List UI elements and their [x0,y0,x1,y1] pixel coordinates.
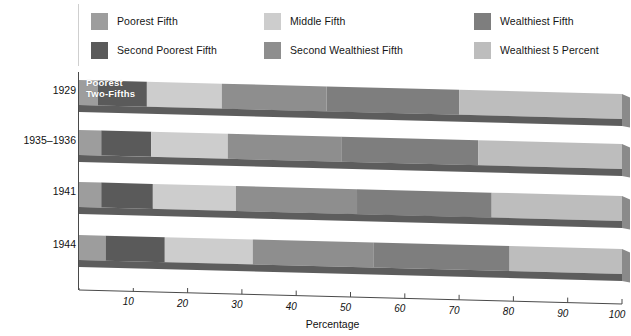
legend-item-middle-fifth[interactable]: Middle Fifth [264,10,345,32]
legend-swatch-icon [264,42,281,59]
bar-segment [151,132,228,159]
legend-label: Poorest Fifth [117,15,178,27]
bars-group [78,72,630,302]
x-axis-tick-label: 20 [177,298,188,309]
bar-segment [101,183,153,209]
x-axis-tick-label: 40 [286,301,297,312]
legend-item-second-wealthiest-fifth[interactable]: Second Wealthiest Fifth [264,39,403,61]
x-axis-tick-label: 30 [231,299,242,310]
bar-segment [478,140,622,169]
bar-segment [253,239,374,267]
bar-segment [228,134,341,162]
bar-segment [459,90,622,119]
y-axis-label-1929: 1929 [53,84,76,96]
x-axis-title: Percentage [0,318,631,330]
plot-area: Poorest Two-Fifths [78,72,630,302]
y-axis-label-1944: 1944 [53,238,76,250]
bar-segment [373,243,509,272]
legend-swatch-icon [264,13,281,30]
legend-label: Second Poorest Fifth [117,44,217,56]
legend-item-wealthiest-5-percent[interactable]: Wealthiest 5 Percent [474,39,599,61]
legend-swatch-icon [474,42,491,59]
x-axis-tick-label: 80 [503,306,514,317]
bar-segment [492,193,622,221]
bar-segment [357,189,492,217]
bar-segment [79,80,98,105]
bar-end-cap [622,196,630,230]
x-axis-title-text: Percentage [306,318,360,330]
legend-column-3: Wealthiest Fifth Wealthiest 5 Percent [474,4,631,66]
bar-segment [79,182,101,208]
legend-swatch-icon [91,42,108,59]
legend-label: Middle Fifth [290,15,345,27]
bar-segment [153,184,236,211]
bar-segment [106,236,165,263]
bar-segment [222,84,327,112]
bar-end-cap [622,249,630,283]
x-axis-tick-label: 90 [557,308,568,319]
x-axis-ticks [78,288,630,310]
legend-item-second-poorest-fifth[interactable]: Second Poorest Fifth [91,39,217,61]
bar-end-cap [622,144,630,178]
legend-column-1: Poorest Fifth Second Poorest Fifth [91,4,261,66]
bar-end-cap [622,94,630,128]
bar-segment [79,235,106,261]
legend-label: Second Wealthiest Fifth [290,44,403,56]
x-axis-tick-label: 70 [449,305,460,316]
bar-segment [101,131,151,157]
y-axis-category-labels: 1929 1935–1936 1941 1944 [0,72,76,302]
x-axis-tick-label: 50 [340,302,351,313]
bar-segment [79,130,101,156]
legend-swatch-icon [91,13,108,30]
income-distribution-chart: Poorest Fifth Second Poorest Fifth Middl… [0,0,631,336]
legend-item-wealthiest-fifth[interactable]: Wealthiest Fifth [474,10,574,32]
bar-segment [147,82,222,109]
legend-label: Wealthiest 5 Percent [500,44,599,56]
bar-segment [510,246,622,274]
bar-segment [165,237,253,264]
legend-swatch-icon [474,13,491,30]
legend-label: Wealthiest Fifth [500,15,574,27]
chart-legend: Poorest Fifth Second Poorest Fifth Middl… [78,4,623,66]
legend-column-2: Middle Fifth Second Wealthiest Fifth [264,4,459,66]
bar-segment [236,186,357,214]
x-axis-tick-label: 60 [394,303,405,314]
x-axis-tick-label: 10 [123,296,134,307]
bar-segment [341,137,478,166]
bar-segment [98,80,147,106]
legend-item-poorest-fifth[interactable]: Poorest Fifth [91,10,178,32]
y-axis-label-1935-1936: 1935–1936 [23,134,76,146]
bar-segment [327,86,459,114]
y-axis-label-1941: 1941 [53,185,76,197]
